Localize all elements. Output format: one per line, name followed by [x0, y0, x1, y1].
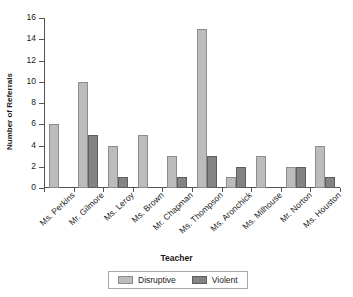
y-tick-label: 0 — [14, 182, 36, 193]
y-tick-label: 4 — [14, 140, 36, 151]
bar-violent — [118, 177, 128, 188]
y-tick-label: 2 — [14, 161, 36, 172]
x-axis-title: Teacher — [0, 253, 353, 263]
bar-group — [78, 18, 98, 188]
bar-violent — [296, 167, 306, 188]
x-axis-labels: Ms. PerkinsMr. GilmoreMs. LeroyMs. Brown… — [44, 190, 340, 252]
bar-group — [138, 18, 158, 188]
bar-group — [108, 18, 128, 188]
legend-entry: Violent — [192, 275, 238, 285]
bar-group — [315, 18, 335, 188]
bar-disruptive — [138, 135, 148, 188]
bar-violent — [207, 156, 217, 188]
bar-disruptive — [286, 167, 296, 188]
y-tick-label: 6 — [14, 118, 36, 129]
legend-swatch-disruptive — [118, 276, 133, 284]
bar-group — [197, 18, 217, 188]
bar-disruptive — [167, 156, 177, 188]
plot-area: 0246810121416 — [44, 18, 340, 188]
y-tick-label: 12 — [14, 55, 36, 66]
bar-disruptive — [256, 156, 266, 188]
bar-disruptive — [78, 82, 88, 188]
bar-groups — [44, 18, 340, 188]
referrals-bar-chart: Number of Referrals 0246810121416 Ms. Pe… — [0, 0, 353, 297]
chart-legend: DisruptiveViolent — [108, 271, 248, 289]
bar-violent — [325, 177, 335, 188]
bar-disruptive — [197, 29, 207, 188]
bar-disruptive — [226, 177, 236, 188]
bar-disruptive — [49, 124, 59, 188]
bar-violent — [236, 167, 246, 188]
bar-group — [226, 18, 246, 188]
bar-group — [256, 18, 276, 188]
legend-label: Disruptive — [138, 275, 176, 285]
legend-entry: Disruptive — [118, 275, 176, 285]
y-tick-label: 14 — [14, 33, 36, 44]
y-tick-label: 10 — [14, 76, 36, 87]
bar-group — [286, 18, 306, 188]
bar-violent — [177, 177, 187, 188]
bar-group — [167, 18, 187, 188]
bar-group — [49, 18, 69, 188]
bar-violent — [88, 135, 98, 188]
y-tick-label: 16 — [14, 12, 36, 23]
legend-swatch-violent — [192, 276, 207, 284]
bar-disruptive — [108, 146, 118, 189]
y-tick-label: 8 — [14, 97, 36, 108]
chart-title — [0, 0, 353, 3]
bar-disruptive — [315, 146, 325, 189]
x-tick — [340, 188, 341, 192]
legend-label: Violent — [212, 275, 238, 285]
y-axis-title: Number of Referrals — [2, 52, 16, 172]
